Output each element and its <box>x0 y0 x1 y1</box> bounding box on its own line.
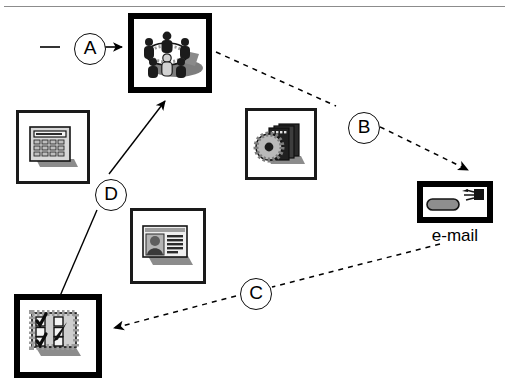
connector-c-line-left <box>114 296 236 328</box>
node-calculator[interactable] <box>16 110 90 184</box>
email-device-icon <box>423 187 487 217</box>
connector-label-a[interactable]: A <box>74 33 106 65</box>
connector-label-d[interactable]: D <box>95 179 127 211</box>
node-cd-software[interactable] <box>245 108 317 180</box>
connector-d-line-upper <box>109 101 165 174</box>
calculator-icon <box>19 113 87 181</box>
node-email[interactable] <box>417 181 493 223</box>
id-card-icon <box>133 211 203 281</box>
connector-b-line-upper <box>216 52 336 106</box>
diagram-canvas: e-mail A B C D <box>0 0 509 392</box>
node-checklist[interactable] <box>14 294 102 378</box>
node-meeting[interactable] <box>128 13 212 93</box>
connector-label-b[interactable]: B <box>348 112 380 144</box>
meeting-table-icon <box>134 19 206 87</box>
connector-d-line-lower <box>60 210 97 296</box>
cd-software-box-icon <box>248 111 314 177</box>
node-id-card[interactable] <box>130 208 206 284</box>
checklist-icon <box>20 300 96 372</box>
connector-c-line-right <box>272 244 440 287</box>
connector-label-c[interactable]: C <box>240 278 272 310</box>
